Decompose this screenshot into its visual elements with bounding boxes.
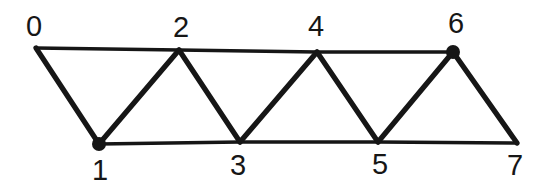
- node-label-6: 6: [448, 7, 464, 39]
- graph-edge-0-1: [36, 48, 99, 144]
- node-label-4: 4: [308, 10, 324, 42]
- node-label-1: 1: [92, 154, 108, 186]
- graph-edge-3-4: [240, 52, 317, 142]
- graph-edge-5-6: [378, 52, 453, 142]
- graph-figure: 01234567: [0, 0, 555, 187]
- graph-edge-4-5: [317, 52, 378, 142]
- node-label-7: 7: [507, 149, 523, 181]
- graph-edge-5-7: [378, 142, 517, 143]
- graph-svg: 01234567: [0, 0, 555, 187]
- node-label-3: 3: [230, 149, 246, 181]
- graph-edge-0-2: [36, 48, 179, 50]
- graph-edge-1-2: [99, 50, 179, 144]
- node-dot-6: [446, 45, 460, 59]
- node-label-5: 5: [372, 148, 388, 180]
- graph-edge-2-4: [179, 50, 317, 52]
- node-dot-1: [92, 137, 106, 151]
- graph-edge-1-3: [99, 142, 240, 144]
- node-label-0: 0: [26, 10, 42, 42]
- graph-edge-6-7: [453, 52, 517, 143]
- graph-edge-2-3: [179, 50, 240, 142]
- node-label-2: 2: [173, 11, 189, 43]
